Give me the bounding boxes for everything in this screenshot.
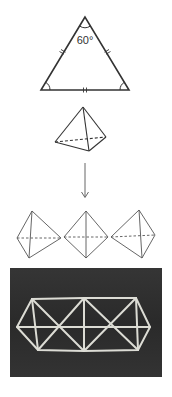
framework-photo — [10, 268, 162, 377]
octahedron-3 — [111, 210, 155, 258]
octahedron-2 — [64, 211, 108, 258]
down-arrow-icon — [82, 163, 89, 198]
octahedra-row — [17, 210, 155, 258]
octahedron-1 — [17, 211, 61, 258]
equilateral-triangle: 60° — [41, 17, 129, 93]
tetrahedron — [55, 107, 106, 151]
figure-canvas: 60° — [0, 0, 172, 397]
apex-angle-label: 60° — [77, 34, 94, 46]
